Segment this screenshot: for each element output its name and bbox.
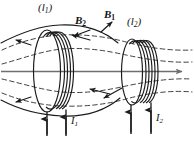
label-loop-2-sub: 2 (134, 20, 138, 29)
label-current-i2-sub: 2 (160, 117, 164, 125)
coil-left-turn-2c (46, 107, 53, 109)
label-loop-2-close: ) (137, 15, 141, 27)
label-loop-2: (l2) (127, 16, 141, 27)
field-arrow-upper-left-icon (16, 40, 31, 45)
label-loop-1-close: ) (48, 1, 52, 13)
label-loop-1-text: (l (38, 1, 45, 13)
b1-leader-arrow-icon (101, 22, 112, 32)
label-current-i1: I1 (71, 116, 78, 127)
coil-right-current-arrows (131, 110, 151, 134)
field-arrow-lower-left-icon (16, 97, 31, 102)
label-loop-1: (l1) (38, 2, 52, 13)
coil-left-leads (47, 110, 66, 134)
field-line-lower-outer (2, 91, 192, 106)
field-line-upper-inner (2, 48, 192, 64)
figure-container: (l1) (l2) B2 B1 I1 I2 (0, 0, 194, 144)
label-field-b2: B2 (75, 15, 86, 26)
label-field-b1-sub: 1 (111, 13, 115, 22)
field-line-upper-outer (2, 35, 192, 50)
label-current-i1-sub: 1 (75, 120, 79, 128)
coil-left-current-arrows (47, 117, 66, 136)
label-loop-1-sub: 1 (45, 6, 49, 15)
label-current-i2-text: I (156, 112, 160, 123)
label-field-b2-sub: 2 (82, 19, 86, 28)
label-field-b1: B1 (104, 9, 115, 20)
field-direction-arrows-solid (72, 35, 122, 98)
magnetic-field-lines-dashed (2, 35, 192, 106)
label-current-i1-text: I (71, 115, 75, 126)
label-loop-2-text: (l (127, 15, 134, 27)
coil-right-leads (131, 103, 151, 132)
label-current-i2: I2 (156, 113, 163, 124)
coil-field-diagram (0, 0, 194, 144)
